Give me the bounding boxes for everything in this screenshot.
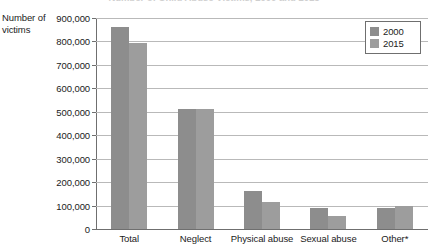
- x-axis-label-physical-abuse: Physical abuse: [231, 233, 294, 244]
- x-axis-label-total: Total: [119, 233, 139, 244]
- legend-swatch-icon: [370, 39, 379, 48]
- y-axis-tick: [92, 182, 96, 183]
- legend-label: 2000: [383, 26, 404, 37]
- y-axis-tick-label: 600,000: [34, 83, 90, 94]
- legend-item-2015[interactable]: 2015: [370, 37, 416, 49]
- bar-sexual-abuse-2015: [328, 216, 346, 229]
- legend: 20002015: [365, 21, 421, 54]
- bar-physical-abuse-2015: [262, 202, 280, 229]
- y-axis-tick: [92, 135, 96, 136]
- y-axis-tick-label: 100,000: [34, 200, 90, 211]
- y-axis-tick: [92, 41, 96, 42]
- y-axis-tick-label: 400,000: [34, 130, 90, 141]
- bar-chart: Number of Child Abuse Victims, 2000 and …: [0, 0, 428, 248]
- bar-neglect-2000: [178, 109, 196, 229]
- bar-other-2000: [377, 208, 395, 229]
- y-axis-tick: [92, 65, 96, 66]
- y-axis-tick: [92, 112, 96, 113]
- gridline: [96, 18, 428, 19]
- y-axis-tick-label: 500,000: [34, 106, 90, 117]
- bar-total-2015: [129, 43, 147, 229]
- y-axis-tick-label: 200,000: [34, 177, 90, 188]
- y-axis-tick-labels: 900,000800,000700,000600,000500,000400,0…: [32, 0, 90, 248]
- bar-neglect-2015: [196, 109, 214, 229]
- bar-total-2000: [111, 27, 129, 229]
- y-axis-tick-label: 800,000: [34, 36, 90, 47]
- bar-other-2015: [395, 206, 413, 229]
- y-axis-tick: [92, 88, 96, 89]
- bar-sexual-abuse-2000: [310, 208, 328, 229]
- bar-physical-abuse-2000: [244, 191, 262, 229]
- y-axis-tick-label: 300,000: [34, 153, 90, 164]
- y-axis-tick-label: 700,000: [34, 59, 90, 70]
- y-axis-tick: [92, 159, 96, 160]
- axis-baseline: [96, 229, 428, 230]
- legend-item-2000[interactable]: 2000: [370, 25, 416, 37]
- x-axis-label-sexual-abuse: Sexual abuse: [300, 233, 356, 244]
- legend-label: 2015: [383, 38, 404, 49]
- y-axis-tick-label: 0: [34, 224, 90, 235]
- y-axis-tick: [92, 206, 96, 207]
- legend-swatch-icon: [370, 27, 379, 36]
- x-axis-label-neglect: Neglect: [180, 233, 212, 244]
- y-axis-tick: [92, 229, 96, 230]
- x-axis-label-other: Other*: [381, 233, 408, 244]
- y-axis-tick: [92, 18, 96, 19]
- y-axis-tick-label: 900,000: [34, 13, 90, 24]
